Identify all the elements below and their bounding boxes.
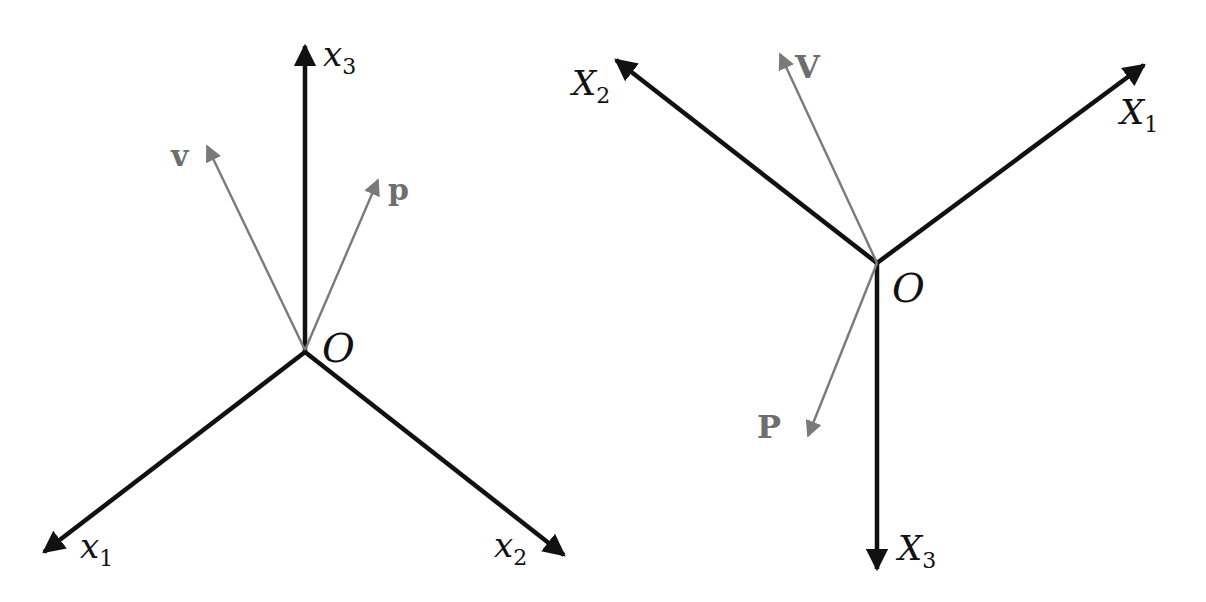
axis-label-X1: X1 [1117,92,1158,137]
origin-label: O [892,265,925,311]
axis-X1 [877,65,1144,263]
axis-label-x1: x1 [80,526,113,571]
axis-label-X3: X3 [895,528,936,573]
vector-label-v: v [170,138,190,173]
axis-label-x3: x3 [323,34,356,79]
vector-label-p: p [388,172,409,207]
spatial-frame-diagram: x3 x1 x2 v p O [44,34,564,571]
origin-label: O [322,325,355,371]
axis-X2 [616,60,877,263]
coordinate-frames-figure: x3 x1 x2 v p O X2 X1 X3 V P O [0,0,1206,602]
axis-x2 [305,352,564,555]
body-frame-diagram: X2 X1 X3 V P O [569,48,1158,573]
vector-label-P: P [757,408,781,446]
vector-v [207,146,305,350]
axis-x1 [44,352,305,552]
axis-label-x2: x2 [494,525,527,570]
vector-P [808,263,877,436]
vector-label-V: V [794,48,821,86]
axis-label-X2: X2 [569,63,610,108]
